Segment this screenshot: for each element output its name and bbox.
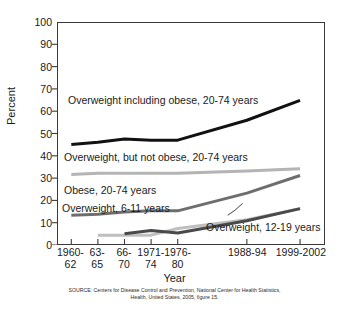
source-note-line-1: SOURCE: Centers for Disease Control and …: [0, 287, 349, 294]
y-axis-tick-label: 50: [40, 128, 52, 139]
series-label: Obese, 20-74 years: [64, 185, 156, 196]
y-axis-tick-label: 20: [40, 195, 52, 206]
source-note: SOURCE: Centers for Disease Control and …: [0, 287, 349, 301]
series-label: Overweight, 12-19 years: [206, 222, 320, 233]
x-axis-tick-labels: 1960-6263-6566-701971-741976-801988-9419…: [0, 247, 349, 273]
y-axis-tick-label: 10: [40, 217, 52, 228]
x-axis-tick-label: 1960-62: [57, 247, 84, 270]
x-axis-tick-label: 66-70: [116, 247, 131, 270]
y-axis-tick-label: 80: [40, 61, 52, 72]
x-axis-tick-label: 1971-74: [137, 247, 164, 270]
y-axis-tick-label: 90: [40, 39, 52, 50]
source-note-line-2: Health, United States, 2005, figure 15.: [0, 294, 349, 301]
series-label: Overweight, 6-11 years: [62, 203, 170, 214]
series-line: [71, 169, 300, 175]
y-axis-tick-label: 100: [34, 17, 52, 28]
series-line: [71, 100, 300, 144]
figure-container: Percent 0102030405060708090100 Overweigh…: [0, 0, 349, 309]
x-axis-tick-label: 1988-94: [228, 247, 267, 259]
x-axis-tick-label: 63-65: [90, 247, 105, 270]
x-axis-title: Year: [0, 272, 349, 284]
y-axis-tick-label: 40: [40, 151, 52, 162]
y-axis-tick-labels: 0102030405060708090100: [26, 22, 52, 245]
series-label: Overweight including obese, 20-74 years: [68, 95, 258, 106]
y-axis-tick-label: 70: [40, 84, 52, 95]
y-axis-title: Percent: [5, 71, 17, 141]
leader-line: [228, 203, 243, 215]
y-axis-tick-label: 30: [40, 173, 52, 184]
series-label: Overweight, but not obese, 20-74 years: [64, 152, 248, 163]
y-axis-tick-label: 60: [40, 106, 52, 117]
x-axis-tick-label: 1999-2002: [276, 247, 326, 259]
x-axis-tick-label: 1976-80: [164, 247, 191, 270]
